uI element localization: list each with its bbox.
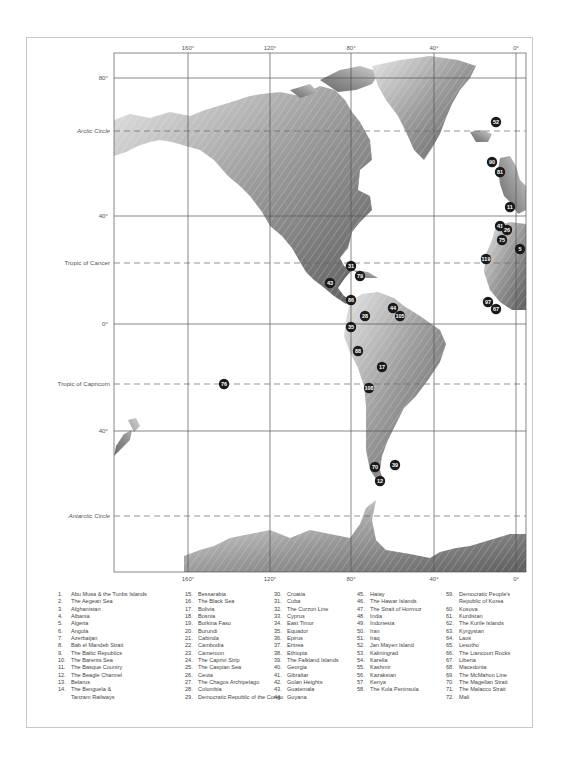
legend-item: 19.Burkina Faso [185, 620, 283, 627]
legend-item-number: 4. [58, 613, 71, 620]
legend-item: 56.Kazakstan [357, 672, 422, 679]
legend-item-label: Indonesia [370, 620, 394, 627]
lon-label: 160° [182, 45, 195, 51]
marker-number: 31 [348, 263, 354, 269]
marker-number: 67 [493, 306, 499, 312]
map-marker[interactable]: 39 [390, 460, 400, 470]
marker-number: 12 [377, 478, 383, 484]
legend-item-label: Kenya [370, 679, 386, 686]
marker-number: 119 [482, 256, 491, 262]
legend-item: 27.The Chagos Archipelago [185, 679, 283, 686]
legend-item-label: Liberia [459, 657, 476, 664]
legend-item: 23.Cameroon [185, 650, 283, 657]
lon-label: 80° [346, 576, 356, 582]
map-marker[interactable]: 97 [483, 297, 493, 307]
legend-item-label: Ceuta [198, 672, 213, 679]
legend-item-label: Bab el Mandeb Strait [71, 642, 123, 649]
legend-item-number: 64. [446, 635, 459, 642]
legend-item: 6.Angola [58, 628, 147, 635]
map-marker[interactable]: 86 [346, 295, 356, 305]
legend-item: 55.Kashmir [357, 664, 422, 671]
map-marker[interactable]: 119 [481, 254, 491, 264]
map-marker[interactable]: 88 [353, 346, 363, 356]
map-marker[interactable]: 52 [491, 117, 501, 127]
legend-item-number: 44. [274, 694, 287, 701]
legend-item-number: 55. [357, 664, 370, 671]
legend-item: 26.Ceuta [185, 672, 283, 679]
map-marker[interactable]: 90 [487, 157, 497, 167]
map-marker[interactable]: 105 [395, 311, 405, 321]
legend-item-label: The McMahon Line [459, 672, 507, 679]
legend-item-label: Cuba [287, 598, 300, 605]
legend-item: 24.The Caprivi Strip [185, 657, 283, 664]
legend-item-number: 3. [58, 606, 71, 613]
longitude-labels-top: 160° 120° 80° 40° 0° [182, 45, 520, 51]
legend-item-number: 12. [58, 672, 71, 679]
map-marker[interactable]: 43 [325, 278, 335, 288]
lat-label: 0° [102, 320, 108, 327]
map-marker[interactable]: 44 [388, 303, 398, 313]
legend-item-label: Bosnia [198, 613, 215, 620]
legend-item-label: Golan Heights [287, 679, 322, 686]
tropic-of-capricorn-label: Tropic of Capricorn [58, 380, 111, 387]
legend-item-number: 15. [185, 591, 198, 598]
legend-item-label: Iraq [370, 635, 380, 642]
map-marker[interactable]: 31 [346, 261, 356, 271]
marker-number: 43 [327, 280, 333, 286]
legend-item-number: 23. [185, 650, 198, 657]
map-marker[interactable]: 12 [375, 476, 385, 486]
marker-number: 76 [221, 381, 227, 387]
map-marker[interactable]: 5 [515, 244, 525, 254]
legend-item-number: 66. [446, 650, 459, 657]
legend-item-label: The Benguela & Tanzam Railways [71, 686, 115, 701]
legend-item-label: The Falkland Islands [287, 657, 339, 664]
legend-item-number: 2. [58, 598, 71, 605]
legend-item: 52.Jan Mayen Island [357, 642, 422, 649]
legend-item: 32.The Curzon Line [274, 606, 339, 613]
map-marker[interactable]: 70 [370, 462, 380, 472]
map-marker[interactable]: 79 [355, 271, 365, 281]
legend-item-number: 27. [185, 679, 198, 686]
lon-label: 80° [346, 45, 356, 51]
map-marker[interactable]: 108 [364, 383, 374, 393]
map-marker[interactable]: 17 [377, 362, 387, 372]
legend-item-label: Ethiopia [287, 650, 307, 657]
legend-item: 72.Mali [446, 694, 510, 701]
map-marker[interactable]: 67 [491, 304, 501, 314]
legend-item-label: Angola [71, 628, 88, 635]
legend-item: 35.Equador [274, 628, 339, 635]
legend-item-label: Albania [71, 613, 90, 620]
legend-item: 69.The McMahon Line [446, 672, 510, 679]
legend-item: 22.Cambodia [185, 642, 283, 649]
legend-item-number: 63. [446, 628, 459, 635]
legend-item-number: 48. [357, 613, 370, 620]
marker-number: 11 [507, 204, 513, 210]
map-marker[interactable]: 28 [360, 311, 370, 321]
map-marker[interactable]: 76 [219, 379, 229, 389]
legend-item: 13.Belarus [58, 679, 147, 686]
legend-item-number: 1. [58, 591, 71, 598]
legend-item-label: Croatia [287, 591, 305, 598]
legend-item-number: 17. [185, 606, 198, 613]
legend-item-number: 13. [58, 679, 71, 686]
legend-item-number: 29. [185, 694, 198, 701]
legend-item-label: Hatay [370, 591, 385, 598]
legend-item-number: 7. [58, 635, 71, 642]
longitude-labels-bottom: 160° 120° 80° 40° 0° [182, 576, 520, 582]
legend-item-number: 50. [357, 628, 370, 635]
legend-item-label: Guyana [287, 694, 307, 701]
map-marker[interactable]: 75 [497, 235, 507, 245]
legend-item: 67.Liberia [446, 657, 510, 664]
legend-item-label: Epirus [287, 635, 303, 642]
legend-item-number: 62. [446, 620, 459, 627]
map-marker[interactable]: 11 [505, 202, 515, 212]
legend-item: 57.Kenya [357, 679, 422, 686]
legend-item-number: 69. [446, 672, 459, 679]
map-marker[interactable]: 26 [502, 225, 512, 235]
legend-item-label: The Basque Country [71, 664, 122, 671]
map-marker[interactable]: 81 [495, 167, 505, 177]
map-marker[interactable]: 35 [346, 322, 356, 332]
legend-item: 60.Kosova [446, 606, 510, 613]
legend-item-number: 11. [58, 664, 71, 671]
legend-item-number: 21. [185, 635, 198, 642]
